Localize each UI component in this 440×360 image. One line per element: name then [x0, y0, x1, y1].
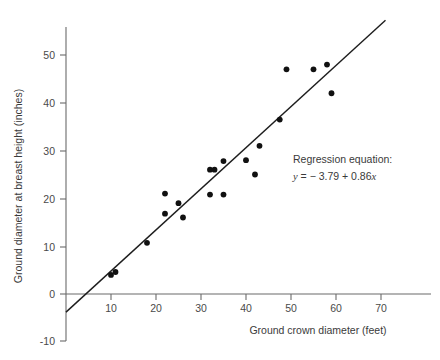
regression-caption: Regression equation:	[293, 153, 392, 165]
x-tick-label-50: 50	[285, 302, 297, 314]
data-point	[329, 90, 335, 96]
data-point	[162, 191, 168, 197]
regression-annotation: Regression equation: y = − 3.79 + 0.86x	[292, 153, 392, 182]
equation-variable: x	[371, 171, 377, 182]
x-axis-title: Ground crown diameter (feet)	[249, 324, 386, 336]
y-tick-label-50: 50	[43, 49, 55, 61]
y-axis-title: Ground diameter at breast height (inches…	[12, 89, 24, 283]
x-tick-label-60: 60	[330, 302, 342, 314]
data-point	[207, 192, 213, 198]
data-point	[176, 200, 182, 206]
data-point	[221, 192, 227, 198]
x-tick-label-20: 20	[150, 302, 162, 314]
data-point	[257, 143, 263, 149]
y-axis-ticks	[60, 55, 66, 341]
y-tick-label-30: 30	[43, 145, 55, 157]
data-point	[113, 269, 119, 275]
chart-canvas: 50 40 30 20 10 0 -10 Ground diameter at …	[0, 0, 440, 360]
y-tick-label-40: 40	[43, 97, 55, 109]
y-tick-label-0: 0	[49, 288, 55, 300]
x-axis: 10 20 30 40 50 60 70 Ground crown diamet…	[66, 294, 431, 336]
x-axis-tick-labels: 10 20 30 40 50 60 70	[105, 302, 387, 314]
y-axis: 50 40 30 20 10 0 -10 Ground diameter at …	[12, 27, 66, 347]
data-point	[180, 215, 186, 221]
regression-line	[66, 20, 386, 312]
data-point	[284, 66, 290, 72]
data-point	[212, 167, 218, 173]
data-point	[221, 158, 227, 164]
data-point	[277, 117, 283, 123]
regression-equation: y = − 3.79 + 0.86x	[292, 170, 377, 182]
x-tick-label-30: 30	[195, 302, 207, 314]
x-axis-ticks	[111, 294, 381, 300]
x-tick-label-10: 10	[105, 302, 117, 314]
x-tick-label-70: 70	[375, 302, 387, 314]
data-point	[162, 211, 168, 217]
data-point	[144, 240, 150, 246]
y-tick-label-10: 10	[43, 241, 55, 253]
data-point	[311, 66, 317, 72]
x-tick-label-40: 40	[240, 302, 252, 314]
data-point	[252, 172, 258, 178]
y-axis-tick-labels: 50 40 30 20 10 0 -10	[40, 49, 55, 347]
scatter-chart: 50 40 30 20 10 0 -10 Ground diameter at …	[0, 0, 440, 360]
y-tick-label-20: 20	[43, 193, 55, 205]
y-tick-label-minus10: -10	[40, 335, 55, 347]
equation-body: = − 3.79 + 0.86	[298, 170, 372, 182]
data-point	[324, 62, 330, 68]
data-point	[243, 157, 249, 163]
